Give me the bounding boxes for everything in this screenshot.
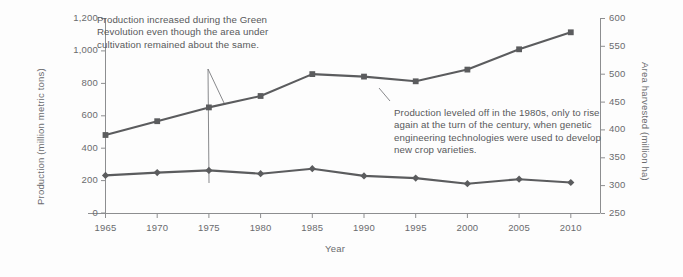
- x-tick-label-1995: 1995: [396, 222, 436, 233]
- annotation-2-leader-line: [379, 88, 390, 101]
- series-area-markers: [102, 165, 575, 187]
- left-tick-label-200: 200: [50, 174, 98, 185]
- left-tick-label-0: 0: [50, 207, 98, 218]
- right-tick-label-600: 600: [609, 12, 649, 23]
- x-axis-ticks: [106, 214, 571, 219]
- x-tick-label-2000: 2000: [447, 222, 487, 233]
- left-tick-label-600: 600: [50, 109, 98, 120]
- x-tick-label-2010: 2010: [551, 222, 591, 233]
- left-tick-label-1200: 1,200: [50, 12, 98, 23]
- x-tick-label-1990: 1990: [344, 222, 384, 233]
- right-tick-label-250: 250: [609, 207, 649, 218]
- x-tick-label-2005: 2005: [499, 222, 539, 233]
- left-tick-label-800: 800: [50, 77, 98, 88]
- chart-container: 1,200 1,000 800 600 400 200 0 600 550 50…: [0, 0, 683, 277]
- x-tick-label-1980: 1980: [241, 222, 281, 233]
- right-tick-label-550: 550: [609, 40, 649, 51]
- left-tick-label-1000: 1,000: [50, 44, 98, 55]
- x-tick-label-1970: 1970: [137, 222, 177, 233]
- x-tick-label-1975: 1975: [189, 222, 229, 233]
- left-axis-title: Production (million metric tons): [35, 68, 46, 205]
- x-tick-label-1985: 1985: [292, 222, 332, 233]
- x-axis-title: Year: [325, 243, 345, 254]
- series-area-line: [106, 169, 571, 184]
- left-tick-label-400: 400: [50, 142, 98, 153]
- annotation-green-revolution: Production increased during the Green Re…: [97, 14, 307, 51]
- annotation-1-leader-lines: [208, 69, 225, 183]
- x-tick-label-1965: 1965: [86, 222, 126, 233]
- right-axis-title: Area harvested (million ha): [640, 62, 651, 181]
- annotation-leveled-off: Production leveled off in the 1980s, onl…: [394, 107, 609, 157]
